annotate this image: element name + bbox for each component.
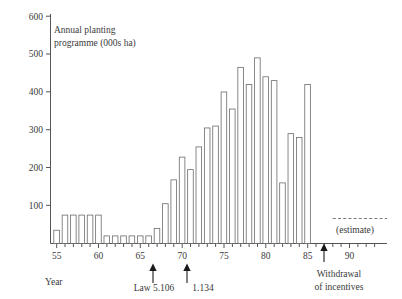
- x-tick-label-55: 55: [52, 251, 62, 261]
- law-1134-label: 1.134: [192, 283, 214, 293]
- bar-82: [280, 183, 286, 244]
- x-tick-label-90: 90: [345, 251, 355, 261]
- x-tick-label-70: 70: [177, 251, 187, 261]
- y-tick-label-100: 100: [29, 201, 44, 211]
- bar-59: [87, 215, 93, 243]
- chart-container: Annual planting programme (000s ha) 600 …: [0, 0, 402, 299]
- bar-84: [296, 137, 302, 243]
- bar-75: [221, 92, 227, 244]
- withdrawal-label-line-1: Withdrawal: [317, 269, 362, 279]
- y-tick-label-600: 600: [29, 12, 44, 22]
- bar-69: [171, 180, 177, 244]
- bar-68: [163, 204, 169, 244]
- y-axis-ticks: 600 500 400 300 200 100: [29, 12, 51, 211]
- bar-56: [62, 215, 68, 243]
- withdrawal-label-line-2: of incentives: [315, 282, 364, 292]
- withdrawal-annotation: Withdrawal of incentives: [315, 244, 364, 293]
- planting-programme-bar-chart: Annual planting programme (000s ha) 600 …: [0, 0, 402, 299]
- bar-72: [196, 147, 202, 244]
- bar-61: [104, 236, 110, 244]
- bar-77: [238, 67, 244, 243]
- bar-62: [112, 236, 118, 244]
- bar-58: [79, 215, 85, 243]
- x-tick-label-60: 60: [94, 251, 104, 261]
- bar-65: [137, 236, 143, 244]
- x-tick-label-80: 80: [261, 251, 271, 261]
- bar-76: [229, 109, 235, 243]
- x-axis-minor-ticks: [57, 244, 375, 249]
- y-tick-label-500: 500: [29, 49, 44, 59]
- bar-60: [96, 215, 102, 243]
- estimate-label: (estimate): [336, 225, 374, 236]
- bar-83: [288, 134, 294, 244]
- bar-74: [213, 126, 219, 243]
- bar-67: [154, 228, 160, 243]
- bar-55: [54, 230, 60, 243]
- bar-79: [255, 58, 261, 244]
- bar-66: [146, 236, 152, 244]
- law-5106-label: Law 5.106: [134, 283, 175, 293]
- x-tick-label-85: 85: [303, 251, 313, 261]
- chart-title-line-1: Annual planting: [54, 25, 116, 35]
- x-axis-title: Year: [45, 277, 63, 287]
- bar-80: [263, 77, 269, 244]
- bar-63: [121, 236, 127, 244]
- bar-73: [204, 128, 210, 244]
- bar-57: [71, 215, 77, 243]
- x-axis-tick-labels: 55 60 65 70 75 80 85 90: [52, 251, 355, 261]
- y-tick-label-200: 200: [29, 163, 44, 173]
- y-tick-label-300: 300: [29, 125, 44, 135]
- law-5106-annotation: Law 5.106: [134, 264, 175, 294]
- bars-group: [54, 58, 311, 244]
- bar-70: [179, 157, 185, 243]
- x-tick-label-75: 75: [219, 251, 229, 261]
- x-tick-label-65: 65: [136, 251, 146, 261]
- y-tick-label-400: 400: [29, 87, 44, 97]
- bar-71: [188, 170, 194, 244]
- bar-81: [271, 81, 277, 244]
- bar-85: [305, 84, 311, 243]
- bar-78: [246, 84, 252, 243]
- bar-64: [129, 236, 135, 244]
- chart-title-line-2: programme (000s ha): [54, 38, 136, 49]
- law-1134-annotation: 1.134: [183, 264, 214, 294]
